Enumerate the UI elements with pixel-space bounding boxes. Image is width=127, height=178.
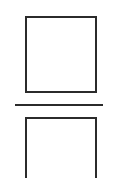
bottom-square <box>25 117 97 178</box>
diagram-canvas <box>0 0 127 178</box>
divider-line <box>15 104 103 107</box>
top-square <box>25 16 97 93</box>
